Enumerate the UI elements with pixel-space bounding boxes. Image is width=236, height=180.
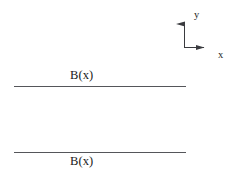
y-axis-label: y [194,10,199,21]
upper-boundary-label: B(x) [70,69,93,82]
lower-boundary-label: B(x) [70,155,93,168]
x-axis-label: x [218,50,223,61]
figure-canvas: B(x) B(x) y x [0,0,236,180]
diagram-svg [0,0,236,180]
